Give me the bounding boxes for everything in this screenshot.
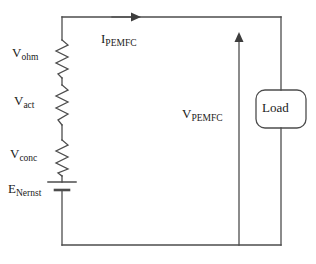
concentration-resistor-zigzag	[56, 140, 68, 176]
label-v-act-sub: act	[23, 100, 34, 110]
label-i-pemfc: IPEMFC	[101, 32, 137, 46]
ohmic-resistor-zigzag	[56, 40, 68, 78]
label-e-nernst-sub: Nernst	[16, 188, 41, 198]
label-v-ohm-base: V	[12, 45, 21, 60]
label-v-ohm-sub: ohm	[21, 52, 38, 62]
label-v-conc-sub: conc	[19, 153, 37, 163]
voltage-arrow-head	[235, 32, 244, 42]
label-load: Load	[262, 101, 289, 114]
label-v-conc: Vconc	[10, 147, 37, 161]
label-v-pemfc-base: V	[182, 106, 191, 121]
label-v-conc-base: V	[10, 146, 19, 161]
label-v-act: Vact	[14, 94, 34, 108]
label-e-nernst-base: E	[8, 181, 16, 196]
current-arrow-head	[131, 13, 141, 22]
circuit-schematic-svg	[0, 0, 316, 264]
label-v-pemfc-sub: PEMFC	[191, 113, 222, 123]
label-e-nernst: ENernst	[8, 182, 41, 196]
activation-resistor-zigzag	[56, 85, 68, 125]
label-v-pemfc: VPEMFC	[182, 107, 223, 121]
label-i-pemfc-sub: PEMFC	[105, 38, 136, 48]
label-v-act-base: V	[14, 93, 23, 108]
label-v-ohm: Vohm	[12, 46, 38, 60]
circuit-diagram-canvas: Vohm Vact Vconc ENernst IPEMFC VPEMFC Lo…	[0, 0, 316, 264]
